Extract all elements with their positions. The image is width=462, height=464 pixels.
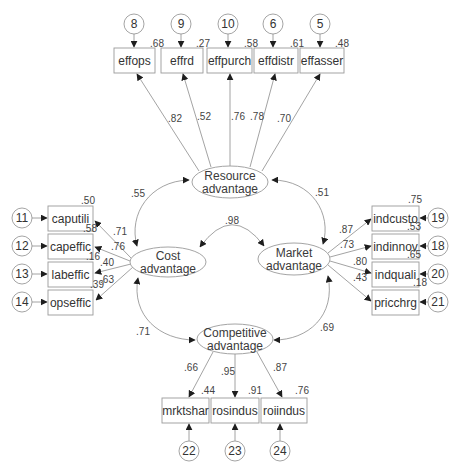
error-label: 13	[15, 267, 29, 281]
r-squared-value: .76	[295, 385, 309, 396]
correlation-curve-cost-market	[200, 225, 264, 247]
loading-value: .95	[221, 366, 235, 377]
loading-value: .71	[113, 226, 127, 237]
latent-label-line2: advantage	[266, 259, 322, 273]
cost-indicator-group: 11 12 13 14 caputili capeffic labeffic o…	[12, 195, 133, 315]
correlation-value: .55	[131, 188, 145, 199]
loading-value: .78	[250, 111, 264, 122]
latent-label-line1: Competitive	[203, 326, 267, 340]
loading-value: .87	[273, 362, 287, 373]
indicator-label: effops	[118, 54, 150, 68]
loading-value: .87	[339, 224, 353, 235]
r-squared-value: .61	[290, 38, 304, 49]
loading-value: .70	[277, 113, 291, 124]
error-label: 5	[317, 17, 324, 31]
r-squared-value: .50	[81, 195, 95, 206]
error-label: 14	[15, 295, 29, 309]
indicator-label: effpurch	[208, 54, 251, 68]
error-label: 22	[182, 444, 196, 458]
r-squared-value: .16	[86, 251, 100, 262]
error-label: 11	[16, 211, 29, 225]
indicator-label: mrktshar	[162, 404, 209, 418]
error-label: 20	[431, 267, 445, 281]
error-label: 24	[273, 444, 287, 458]
r-squared-value: .48	[335, 38, 349, 49]
error-label: 9	[178, 17, 185, 31]
correlation-value: .71	[136, 326, 150, 337]
loading-value: .66	[184, 362, 198, 373]
loading-value: .43	[353, 272, 367, 283]
loading-value: .76	[111, 241, 125, 252]
latent-market-advantage: Market advantage	[258, 243, 330, 275]
latent-label-line1: Cost	[156, 249, 181, 263]
loading-arrow	[328, 265, 371, 301]
correlation-value: .51	[315, 187, 329, 198]
indicator-label: effrd	[170, 54, 194, 68]
r-squared-value: .75	[408, 194, 422, 205]
indicator-label: roiindus	[263, 404, 305, 418]
error-label: 6	[270, 17, 277, 31]
resource-indicator-group: 8 9 10 6 5 .68 .27 .58 .61 .48 effops ef…	[114, 14, 349, 171]
r-squared-value: .68	[150, 38, 164, 49]
indicator-label: indquali	[375, 268, 416, 282]
loading-value: .52	[197, 111, 211, 122]
indicator-label: labeffic	[52, 268, 90, 282]
error-label: 12	[15, 239, 29, 253]
loading-value: .80	[353, 256, 367, 267]
r-squared-value: .91	[248, 385, 262, 396]
r-squared-value: .65	[407, 249, 421, 260]
indicator-label: rosindus	[212, 404, 257, 418]
market-indicator-group: 19 18 20 21 indcusto indinnov indquali p…	[328, 194, 448, 315]
latent-label-line1: Resource	[204, 169, 256, 183]
r-squared-value: .58	[244, 38, 258, 49]
error-label: 19	[431, 211, 445, 225]
indicator-label: pricchrg	[374, 296, 417, 310]
latent-cost-advantage: Cost advantage	[130, 247, 206, 277]
latent-resource-advantage: Resource advantage	[192, 166, 268, 198]
latent-competitive-advantage: Competitive advantage	[197, 324, 273, 354]
latent-label-line2: advantage	[207, 339, 263, 353]
loading-value: .73	[340, 239, 354, 250]
error-label: 21	[431, 295, 445, 309]
loading-value: .40	[100, 257, 114, 268]
latent-label-line1: Market	[276, 246, 313, 260]
r-squared-value: .18	[413, 277, 427, 288]
indicator-label: effdistr	[258, 54, 294, 68]
r-squared-value: .27	[196, 38, 210, 49]
competitive-indicator-group: .66 .95 .87 .44 .91 .76 mrktshar rosindu…	[162, 352, 309, 461]
loading-value: .63	[100, 274, 114, 285]
error-label: 23	[228, 444, 242, 458]
error-label: 18	[431, 239, 445, 253]
latent-label-line2: advantage	[202, 182, 258, 196]
correlation-value: .69	[320, 322, 334, 333]
sem-path-diagram: 8 9 10 6 5 .68 .27 .58 .61 .48 effops ef…	[0, 0, 462, 464]
indicator-label: capeffic	[50, 240, 91, 254]
r-squared-value: .53	[407, 221, 421, 232]
latent-label-line2: advantage	[140, 262, 196, 276]
indicator-label: opseffic	[50, 296, 91, 310]
indicator-label: effasser	[301, 54, 343, 68]
r-squared-value: .44	[201, 385, 215, 396]
correlation-value: .98	[225, 215, 239, 226]
loading-value: .82	[168, 113, 182, 124]
loading-value: .76	[231, 111, 245, 122]
error-label: 10	[221, 17, 235, 31]
r-squared-value: .58	[83, 223, 97, 234]
error-label: 8	[131, 17, 138, 31]
